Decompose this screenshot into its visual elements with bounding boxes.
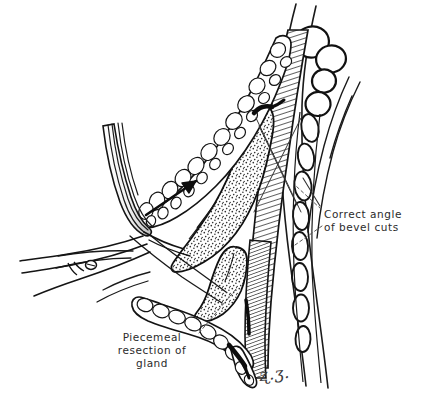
piecemeal-label-line-1: Piecemeal bbox=[104, 331, 200, 344]
illustration-canvas bbox=[0, 0, 426, 411]
label-correct-angle-of-bevel-cuts: Correct angle of bevel cuts bbox=[324, 208, 402, 234]
retractor-hinge-screw bbox=[86, 261, 97, 270]
piecemeal-label-line-2: resection of bbox=[104, 344, 200, 357]
artist-signature: ʐ.ʒ. bbox=[258, 363, 291, 385]
ring-chain-segment-8 bbox=[295, 326, 311, 353]
piecemeal-label-line-3: gland bbox=[104, 357, 200, 370]
bevel-label-line-2: of bevel cuts bbox=[324, 221, 402, 234]
label-piecemeal-resection-of-gland: Piecemeal resection of gland bbox=[104, 331, 200, 370]
surgical-illustration-figure: Correct angle of bevel cuts Piecemeal re… bbox=[0, 0, 426, 411]
bevel-label-line-1: Correct angle bbox=[324, 208, 402, 221]
